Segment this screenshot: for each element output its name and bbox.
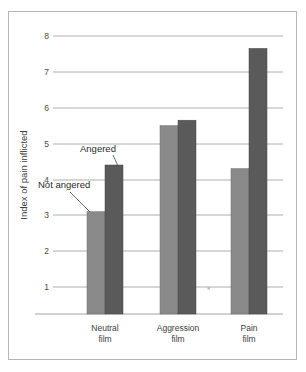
x-category-labels: Neutral film Aggression film Pain film bbox=[91, 323, 257, 344]
pain-film-not-angered-bar[interactable] bbox=[231, 169, 249, 314]
aggression-film-angered-bar[interactable] bbox=[178, 120, 196, 314]
neutral-film-not-angered-bar[interactable] bbox=[87, 212, 105, 314]
aggression-film-not-angered-bar[interactable] bbox=[160, 126, 178, 314]
y-tick-label-3: 3 bbox=[44, 210, 49, 220]
y-tick-label-5: 5 bbox=[44, 139, 49, 149]
annotation-not-angered-leader bbox=[70, 192, 90, 212]
y-tick-label-1: 1 bbox=[44, 282, 49, 292]
category-label-pain-line1: Pain bbox=[240, 323, 257, 333]
bar-group-pain-film bbox=[231, 48, 267, 314]
category-label-neutral-line2: film bbox=[98, 334, 111, 344]
annotation-not-angered-label: Not angered bbox=[38, 179, 90, 190]
y-tick-label-6: 6 bbox=[44, 103, 49, 113]
annotation-angered-label: Angered bbox=[80, 143, 116, 154]
bar-chart: 8 7 6 5 4 3 2 1 Index of pain inflicted bbox=[0, 0, 306, 372]
neutral-film-angered-bar[interactable] bbox=[105, 165, 123, 314]
category-label-aggression-line1: Aggression bbox=[157, 323, 200, 333]
annotation-angered-leader bbox=[113, 155, 118, 166]
chart-canvas: 8 7 6 5 4 3 2 1 Index of pain inflicted bbox=[0, 0, 306, 372]
category-label-aggression-line2: film bbox=[171, 334, 184, 344]
y-tick-labels: 8 7 6 5 4 3 2 1 bbox=[44, 31, 49, 292]
y-tick-label-2: 2 bbox=[44, 246, 49, 256]
figure-container: 8 7 6 5 4 3 2 1 Index of pain inflicted bbox=[0, 0, 306, 372]
y-tick-label-8: 8 bbox=[44, 31, 49, 41]
bar-group-aggression-film bbox=[160, 120, 196, 314]
category-label-pain-line2: film bbox=[242, 334, 255, 344]
pain-film-angered-bar[interactable] bbox=[249, 48, 267, 314]
scan-speck bbox=[208, 287, 211, 290]
y-axis-title: Index of pain inflicted bbox=[18, 130, 29, 219]
y-tick-label-7: 7 bbox=[44, 67, 49, 77]
category-label-neutral-line1: Neutral bbox=[91, 323, 119, 333]
bar-group-neutral-film bbox=[87, 165, 123, 314]
